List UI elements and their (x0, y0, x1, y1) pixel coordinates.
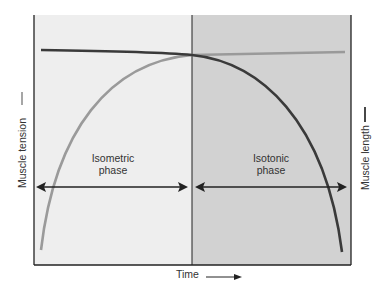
y-axis-left-label: Muscle tension (16, 118, 28, 188)
isometric-label-line1: Isometric (73, 152, 153, 164)
isometric-label-line2: phase (73, 164, 153, 176)
isometric-phase-label: Isometric phase (73, 152, 153, 176)
isotonic-label-line1: Isotonic (231, 152, 311, 164)
isotonic-label-line2: phase (231, 164, 311, 176)
muscle-contraction-diagram: Isometric phase Isotonic phase Muscle te… (0, 0, 378, 290)
time-arrowhead-icon (234, 274, 242, 280)
x-axis-label: Time (176, 268, 199, 280)
isotonic-phase-label: Isotonic phase (231, 152, 311, 176)
y-axis-right-label: Muscle length (359, 125, 371, 190)
